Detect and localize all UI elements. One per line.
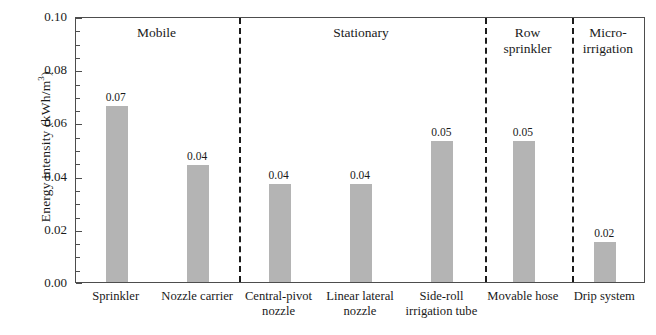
y-axis-minor-tick <box>76 257 80 258</box>
x-axis-tick-label: Drip system <box>558 289 651 304</box>
y-axis-major-tick <box>76 231 82 232</box>
x-axis-tick-label-line: Linear lateral <box>313 289 406 304</box>
bar-value-label: 0.05 <box>493 126 553 138</box>
bar <box>350 184 372 282</box>
bar <box>431 141 453 282</box>
y-axis-minor-tick <box>76 151 80 152</box>
x-axis-tick-label: Sprinkler <box>69 289 162 304</box>
group-header-label: Micro-irrigation <box>571 25 645 57</box>
x-axis-tick-label-line: Nozzle carrier <box>150 289 243 304</box>
group-header-label-line: Row <box>484 25 571 41</box>
y-axis-tick-label-text: 0.04 <box>44 169 67 185</box>
x-axis-tick-label-line: Movable hose <box>476 289 569 304</box>
x-axis-tick-label-line: Sprinkler <box>69 289 162 304</box>
group-header-label: Rowsprinkler <box>484 25 571 57</box>
y-axis-major-tick <box>76 18 82 19</box>
y-axis-minor-tick <box>76 58 80 59</box>
x-axis-tick-label-line: Central-pivot <box>232 289 325 304</box>
y-axis-title: Energy intensity (kWh/m3) <box>36 7 54 287</box>
y-axis-major-tick <box>76 71 82 72</box>
x-axis-tick-label: Linear lateralnozzle <box>313 289 406 318</box>
bar-value-label: 0.05 <box>411 126 471 138</box>
x-axis-tick-label-line: irrigation tube <box>395 304 488 319</box>
x-axis-tick-label-line: nozzle <box>232 304 325 319</box>
y-axis-tick-label-text: 0.08 <box>44 62 67 78</box>
bar-value-label: 0.04 <box>249 169 309 181</box>
bar <box>594 242 616 282</box>
y-axis-minor-tick <box>76 85 80 86</box>
group-header-label-line: Mobile <box>75 25 238 41</box>
y-axis-minor-tick <box>76 111 80 112</box>
group-divider <box>572 18 574 282</box>
x-axis-tick-label: Central-pivotnozzle <box>232 289 325 318</box>
group-header-label: Stationary <box>238 25 484 41</box>
y-axis-tick-label-text: 0.10 <box>44 9 67 25</box>
group-header-label-line: Micro- <box>571 25 645 41</box>
group-divider <box>239 18 241 282</box>
group-divider <box>485 18 487 282</box>
y-axis-minor-tick <box>76 218 80 219</box>
bar <box>106 106 128 282</box>
bar-value-label: 0.04 <box>330 169 390 181</box>
y-axis-minor-tick <box>76 138 80 139</box>
x-axis-tick-label-line: nozzle <box>313 304 406 319</box>
chart-figure: Energy intensity (kWh/m3) 0.000.020.040.… <box>0 0 656 335</box>
y-axis-minor-tick <box>76 191 80 192</box>
x-axis-tick-label: Movable hose <box>476 289 569 304</box>
bar-value-label: 0.02 <box>574 227 634 239</box>
y-axis-minor-tick <box>76 45 80 46</box>
x-axis-tick-label: Side-rollirrigation tube <box>395 289 488 318</box>
y-axis-minor-tick <box>76 164 80 165</box>
group-header-label-line: sprinkler <box>484 41 571 57</box>
y-axis-minor-tick <box>76 98 80 99</box>
x-axis-tick-label-line: Drip system <box>558 289 651 304</box>
bar-value-label: 0.07 <box>86 91 146 103</box>
y-axis-major-tick <box>76 124 82 125</box>
x-axis-tick-label: Nozzle carrier <box>150 289 243 304</box>
bar-value-label: 0.04 <box>167 150 227 162</box>
group-header-label: Mobile <box>75 25 238 41</box>
y-axis-tick-label-text: 0.02 <box>44 222 67 238</box>
y-axis-major-tick <box>76 283 82 284</box>
bar <box>187 165 209 282</box>
y-axis-tick-label-text: 0.06 <box>44 115 67 131</box>
y-axis-minor-tick <box>76 244 80 245</box>
bar <box>269 184 291 282</box>
y-axis-tick-label-text: 0.00 <box>44 275 67 291</box>
y-axis-minor-tick <box>76 204 80 205</box>
y-axis-title-text: Energy intensity (kWh/m <box>38 81 53 223</box>
y-axis-major-tick <box>76 178 82 179</box>
group-header-label-line: irrigation <box>571 41 645 57</box>
group-header-label-line: Stationary <box>238 25 484 41</box>
bar <box>513 141 535 282</box>
x-axis-tick-label-line: Side-roll <box>395 289 488 304</box>
y-axis-minor-tick <box>76 271 80 272</box>
